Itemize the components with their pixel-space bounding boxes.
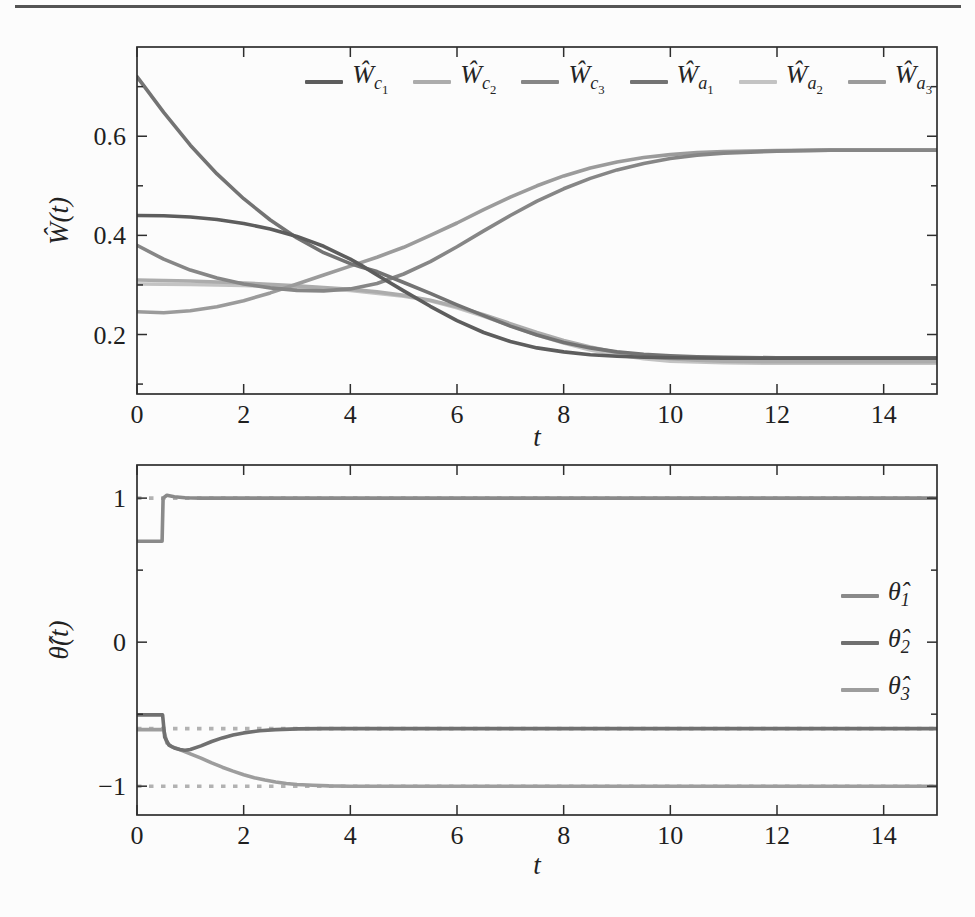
x-tick-label: 2 bbox=[237, 400, 250, 429]
x-tick-label: 14 bbox=[871, 400, 897, 429]
x-tick-label: 6 bbox=[451, 821, 464, 850]
x-tick-label: 0 bbox=[131, 400, 144, 429]
legend-swatch-theta3 bbox=[841, 688, 879, 692]
legend-item-theta3: θ̂3 bbox=[841, 672, 910, 708]
axis-frame bbox=[137, 47, 937, 394]
x-tick-label: 0 bbox=[131, 821, 144, 850]
legend-swatch-theta1 bbox=[841, 594, 879, 598]
legend-label-theta3: θ̂3 bbox=[888, 672, 910, 708]
theta-legend: θ̂1θ̂2θ̂3 bbox=[841, 578, 910, 709]
x-tick-label: 8 bbox=[557, 400, 570, 429]
legend-swatch-Wc1 bbox=[305, 80, 343, 84]
legend-item-Wc3: Ŵc3 bbox=[521, 61, 604, 104]
legend-item-Wa3: Ŵa3 bbox=[848, 61, 932, 104]
theta-y-axis-label: θ̂(t) bbox=[44, 621, 75, 660]
legend-label-Wa3: Ŵa3 bbox=[895, 61, 932, 104]
page-header-rule bbox=[15, 5, 961, 8]
series-Wc2-line bbox=[137, 280, 937, 362]
legend-item-theta1: θ̂1 bbox=[841, 578, 910, 614]
legend-swatch-Wa1 bbox=[630, 80, 668, 84]
series-Wa2-line bbox=[137, 284, 937, 363]
legend-label-theta1: θ̂1 bbox=[888, 578, 910, 614]
y-tick-label: 0.6 bbox=[94, 122, 127, 151]
x-tick-label: 4 bbox=[344, 400, 357, 429]
series-theta2-line bbox=[137, 715, 937, 750]
weights-plot: 024681012140.20.40.6 Ŵ(t) t Ŵc1Ŵc2Ŵc3Ŵa1… bbox=[0, 0, 975, 917]
y-tick-label: 0 bbox=[113, 628, 126, 657]
series-theta1-line bbox=[137, 495, 937, 541]
y-tick-label: 1 bbox=[113, 484, 126, 513]
axis-frame bbox=[137, 465, 937, 815]
theta-plot: 02468101214−101 θ̂(t) t θ̂1θ̂2θ̂3 bbox=[0, 0, 975, 917]
theta-x-axis-label: t bbox=[533, 850, 541, 881]
legend-label-Wa2: Ŵa2 bbox=[786, 61, 823, 104]
legend-item-Wc1: Ŵc1 bbox=[305, 61, 388, 104]
legend-label-theta2: θ̂2 bbox=[888, 625, 910, 661]
x-tick-label: 2 bbox=[237, 821, 250, 850]
x-tick-label: 10 bbox=[657, 400, 683, 429]
weights-x-axis-label: t bbox=[533, 422, 541, 453]
series-Wa3-line bbox=[137, 150, 937, 313]
legend-swatch-theta2 bbox=[841, 641, 879, 645]
x-tick-label: 4 bbox=[344, 821, 357, 850]
legend-item-Wa2: Ŵa2 bbox=[739, 61, 823, 104]
legend-label-Wc2: Ŵc2 bbox=[460, 61, 496, 104]
series-Wc1-line bbox=[137, 216, 937, 359]
x-tick-label: 12 bbox=[764, 400, 790, 429]
y-tick-label: 0.4 bbox=[94, 221, 127, 250]
legend-item-Wc2: Ŵc2 bbox=[413, 61, 496, 104]
legend-swatch-Wc3 bbox=[521, 80, 559, 84]
series-Wa1-line bbox=[137, 77, 937, 358]
series-Wc3-line bbox=[137, 150, 937, 291]
legend-swatch-Wa2 bbox=[739, 80, 777, 84]
x-tick-label: 14 bbox=[871, 821, 897, 850]
weights-plot-canvas: 024681012140.20.40.6 bbox=[0, 0, 975, 917]
y-tick-label: −1 bbox=[98, 772, 126, 801]
x-tick-label: 10 bbox=[657, 821, 683, 850]
theta-plot-canvas: 02468101214−101 bbox=[0, 0, 975, 917]
figure-page: 024681012140.20.40.6 Ŵ(t) t Ŵc1Ŵc2Ŵc3Ŵa1… bbox=[0, 0, 975, 917]
y-tick-label: 0.2 bbox=[94, 321, 127, 350]
legend-label-Wc1: Ŵc1 bbox=[352, 61, 388, 104]
x-tick-label: 12 bbox=[764, 821, 790, 850]
legend-swatch-Wa3 bbox=[848, 80, 886, 84]
weights-y-axis-label: Ŵ(t) bbox=[44, 197, 75, 245]
legend-label-Wc3: Ŵc3 bbox=[568, 61, 604, 104]
weights-legend: Ŵc1Ŵc2Ŵc3Ŵa1Ŵa2Ŵa3 bbox=[140, 64, 932, 100]
x-tick-label: 8 bbox=[557, 821, 570, 850]
legend-swatch-Wc2 bbox=[413, 80, 451, 84]
legend-item-theta2: θ̂2 bbox=[841, 625, 910, 661]
legend-item-Wa1: Ŵa1 bbox=[630, 61, 714, 104]
series-theta3-line bbox=[137, 730, 937, 787]
x-tick-label: 6 bbox=[451, 400, 464, 429]
legend-label-Wa1: Ŵa1 bbox=[677, 61, 714, 104]
